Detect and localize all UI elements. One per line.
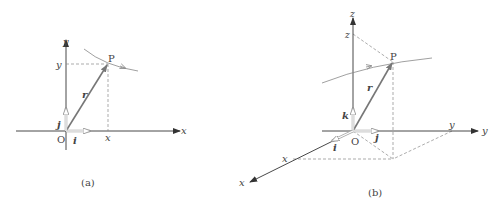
- origin-label-3d: O: [351, 136, 359, 147]
- unit-i-label: i: [73, 135, 77, 146]
- unit-vector-i-3d-inner: [332, 131, 353, 141]
- vector-r-label: r: [82, 89, 88, 100]
- unit-i-label-3d: i: [333, 142, 337, 153]
- proj-y-label: y: [55, 59, 62, 70]
- origin-label: O: [57, 134, 65, 145]
- unit-j-label-3d: j: [373, 132, 379, 143]
- curve-direction-arrow-icon: [366, 66, 371, 67]
- figure-b: z z y y x x P r k j i O (b): [239, 9, 488, 198]
- unit-k-label: k: [342, 110, 349, 121]
- axis-z-label: z: [349, 9, 355, 19]
- caption-b: (b): [368, 187, 382, 198]
- axis-y-label: y: [62, 36, 69, 47]
- caption-a: (a): [81, 177, 95, 188]
- axis-y-label-3d: y: [481, 125, 488, 136]
- unit-j-label: j: [55, 119, 61, 130]
- point-p-label: P: [108, 53, 115, 64]
- trajectory-curve-3d: [322, 58, 432, 83]
- axis-x-label: x: [181, 125, 187, 136]
- proj-x-label: x: [105, 132, 111, 143]
- position-vector-r-3d: [353, 63, 392, 131]
- proj-x-label-3d: x: [282, 153, 288, 164]
- diagram-canvas: y x y x P r j i O (a) z z: [0, 0, 503, 216]
- axis-x-label-3d: x: [239, 177, 245, 188]
- point-p-label-3d: P: [390, 51, 397, 62]
- figure-a: y x y x P r j i O (a): [16, 36, 187, 188]
- dashed-y-to-base: [393, 131, 452, 159]
- vector-r-label-3d: r: [367, 82, 373, 93]
- proj-y-label-3d: y: [448, 119, 455, 130]
- proj-z-label: z: [344, 30, 350, 40]
- dashed-z-to-p: [353, 34, 393, 62]
